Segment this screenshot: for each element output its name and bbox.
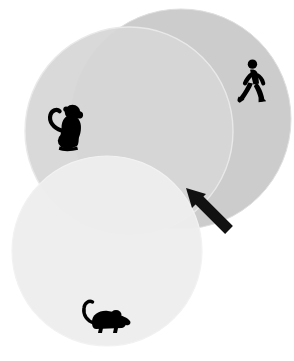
venn-diagram-canvas: [0, 0, 294, 361]
venn-diagram-figure: [0, 0, 294, 361]
